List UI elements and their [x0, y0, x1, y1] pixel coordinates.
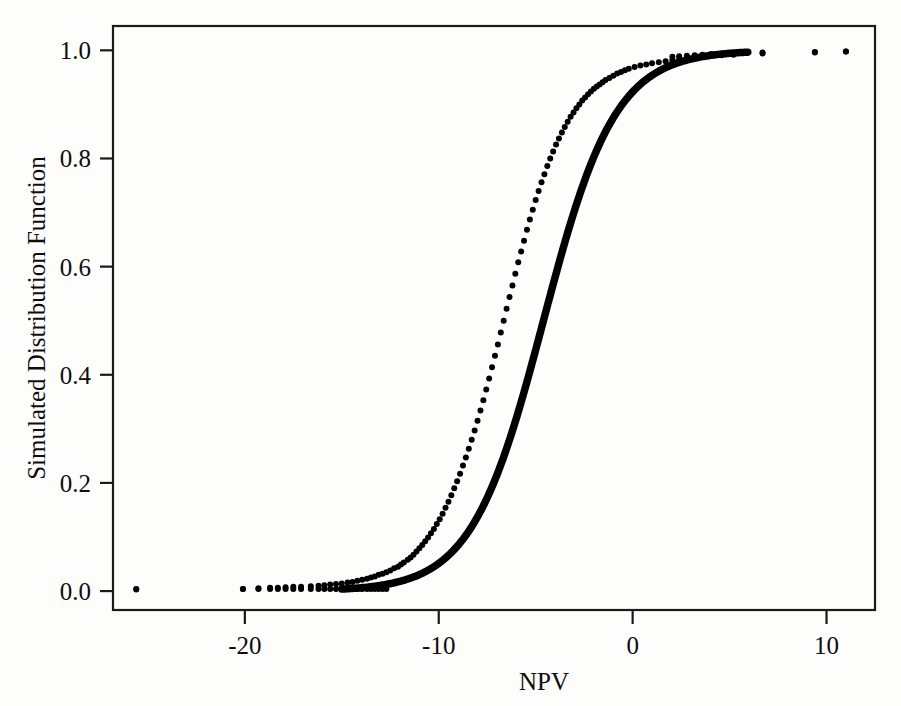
data-point [507, 294, 513, 300]
data-point [643, 61, 649, 67]
data-point [501, 318, 507, 324]
data-point [556, 135, 562, 141]
data-point [512, 271, 518, 277]
data-point [290, 586, 296, 592]
data-point [626, 66, 632, 72]
data-point [498, 330, 504, 336]
data-point [656, 59, 662, 65]
data-point [308, 586, 314, 592]
x-axis-tick-labels: -20-10010 [228, 632, 839, 659]
data-point [448, 492, 454, 498]
data-point [477, 407, 483, 413]
data-point [527, 217, 533, 223]
data-point [480, 397, 486, 403]
data-point [316, 586, 322, 592]
data-point [445, 499, 451, 505]
y-tick-label: 0.8 [60, 145, 91, 172]
y-tick-label: 1.0 [60, 37, 91, 64]
data-point [472, 427, 478, 433]
data-point [460, 463, 466, 469]
ecdf-data-dots [133, 48, 849, 592]
y-axis-tick-labels: 0.00.20.40.60.81.0 [60, 37, 92, 605]
x-axis-title: NPV [519, 668, 569, 695]
data-point [437, 516, 443, 522]
data-point [539, 179, 545, 185]
data-point [550, 148, 556, 154]
data-point [463, 455, 469, 461]
data-point [486, 376, 492, 382]
data-point [298, 586, 304, 592]
chart-figure: 0.00.20.40.60.81.0 -20-10010 NPV Simulat… [0, 0, 901, 706]
data-point [275, 586, 281, 592]
y-tick-label: 0.6 [60, 254, 91, 281]
plot-frame [113, 26, 875, 610]
x-tick-label: -10 [422, 632, 455, 659]
data-point [466, 446, 472, 452]
ecdf-dense-curve [342, 52, 748, 589]
data-point [451, 485, 457, 491]
data-point [475, 418, 481, 424]
y-axis-ticks [100, 50, 113, 591]
x-tick-label: 0 [626, 632, 639, 659]
y-tick-label: 0.0 [60, 578, 91, 605]
data-point [669, 54, 675, 60]
data-point [133, 586, 139, 592]
data-point [267, 586, 273, 592]
y-tick-label: 0.2 [60, 470, 91, 497]
data-point [457, 471, 463, 477]
data-point [321, 586, 327, 592]
data-point [515, 259, 521, 265]
data-point [547, 155, 553, 161]
ecdf-plot: 0.00.20.40.60.81.0 -20-10010 NPV Simulat… [0, 0, 901, 706]
data-point [443, 505, 449, 511]
data-point [760, 50, 766, 56]
data-point [440, 511, 446, 517]
y-tick-label: 0.4 [60, 362, 92, 389]
data-point [504, 306, 510, 312]
data-point [559, 130, 565, 136]
data-point [533, 197, 539, 203]
data-point [544, 163, 550, 169]
data-point [536, 188, 542, 194]
data-point [495, 342, 501, 348]
data-point [649, 60, 655, 66]
data-point [240, 586, 246, 592]
data-point [530, 207, 536, 213]
data-point [812, 49, 818, 55]
data-point [489, 364, 495, 370]
data-point [518, 248, 524, 254]
data-point [469, 437, 475, 443]
x-tick-label: 10 [814, 632, 839, 659]
data-point [637, 62, 643, 68]
data-point [255, 586, 261, 592]
data-point [283, 586, 289, 592]
data-point [483, 386, 489, 392]
data-point [509, 283, 515, 289]
y-axis-title: Simulated Distribution Function [23, 156, 50, 480]
data-point [541, 171, 547, 177]
x-axis-ticks [245, 610, 827, 624]
data-point [524, 227, 530, 233]
data-point [553, 141, 559, 147]
data-point [632, 64, 638, 70]
data-point [562, 124, 568, 130]
data-point [454, 478, 460, 484]
data-point [843, 48, 849, 54]
data-point [327, 586, 333, 592]
data-point [492, 353, 498, 359]
data-point [521, 238, 527, 244]
x-tick-label: -20 [228, 632, 261, 659]
